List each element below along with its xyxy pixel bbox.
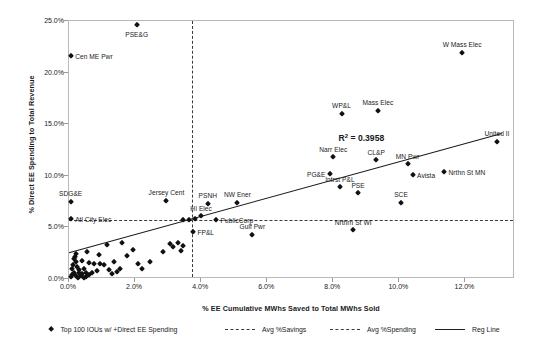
legend-label: Avg %Savings [262,326,306,333]
data-point-label: PSNH [198,192,217,199]
x-tick-mark [68,278,69,282]
data-point-label: SDG&E [59,190,82,197]
x-tick-label: 10.0% [375,283,421,290]
data-point-label: Intrst P&L [325,175,354,182]
data-point-label: Nrthrn St WI [335,218,372,225]
y-tick-label: 10.0% [24,171,64,178]
legend-dashed-line-icon [330,329,360,330]
data-point-label: SCE [394,191,408,198]
data-point-label: Narr Elec [319,145,347,152]
y-tick-label: 20.0% [24,68,64,75]
plot-area: PSE&GCen ME PwrW Mass ElecWP&LMass ElecU… [68,20,514,278]
data-point-label: Cen ME Pwr [75,53,113,60]
x-tick-mark [332,278,333,282]
data-point-label: Nrthn St MN [448,168,485,175]
x-tick-mark [266,278,267,282]
y-tick-mark [63,20,68,21]
data-point-label: PSE [351,181,364,188]
data-point-label: NW Ener [224,191,251,198]
data-point-label: Mass Elec [362,99,393,106]
legend-item: Avg %Spending [330,322,416,336]
y-tick-label: 25.0% [24,17,64,24]
y-tick-label: 15.0% [24,120,64,127]
regression-line-svg [69,21,515,279]
y-tick-mark [63,72,68,73]
legend-solid-line-icon [435,329,465,330]
y-tick-label: 0.0% [24,275,64,282]
y-tick-mark [63,175,68,176]
legend-diamond-icon [48,326,54,332]
legend-item: Reg Line [435,322,500,336]
scatter-chart: % Direct EE Spending to Total Revenue 0.… [0,0,538,349]
reg-line [69,133,502,252]
legend-label: Avg %Spending [367,326,416,333]
data-point-label: CL&P [368,148,385,155]
x-tick-mark [200,278,201,282]
legend-label: Reg Line [472,326,500,333]
x-tick-label: 2.0% [111,283,157,290]
y-tick-mark [63,123,68,124]
data-point-label: Avista [417,171,435,178]
data-point-label: Jersey Cent [149,189,185,196]
data-point-label: HI Elec [190,204,212,211]
x-tick-label: 6.0% [243,283,289,290]
x-tick-label: 8.0% [309,283,355,290]
x-tick-label: 12.0% [441,283,487,290]
r-squared-annotation: R2 = 0.3958 [339,132,385,143]
x-axis-title: % EE Cumulative MWhs Saved to Total MWhs… [68,304,514,313]
x-tick-label: 4.0% [177,283,223,290]
data-point-label: W Mass Elec [443,41,482,48]
legend-dashed-line-icon [225,329,255,330]
data-point-label: Gulf Pwr [240,223,266,230]
x-tick-label: 0.0% [45,283,91,290]
legend-item: Avg %Savings [225,322,306,336]
x-tick-mark [398,278,399,282]
legend-item: Top 100 IOUs w/ +Direct EE Spending [40,322,177,336]
y-tick-labels: 0.0%5.0%10.0%15.0%20.0%25.0% [18,0,64,349]
avg-savings-vline [192,21,193,277]
data-point-label: United Il [485,130,510,137]
chart-legend: Top 100 IOUs w/ +Direct EE SpendingAvg %… [40,322,520,342]
x-tick-mark [134,278,135,282]
data-point-label: FP&L [197,228,214,235]
legend-label: Top 100 IOUs w/ +Direct EE Spending [60,326,177,333]
data-point-label: Atl City Elec [75,215,111,222]
y-tick-label: 5.0% [24,223,64,230]
x-tick-mark [464,278,465,282]
data-point-label: PG&E [307,170,326,177]
data-point-label: MN Pwr [396,152,420,159]
y-tick-mark [63,226,68,227]
avg-spending-hline [69,220,513,221]
data-point-label: WP&L [332,102,351,109]
data-point-label: PSE&G [125,30,148,37]
